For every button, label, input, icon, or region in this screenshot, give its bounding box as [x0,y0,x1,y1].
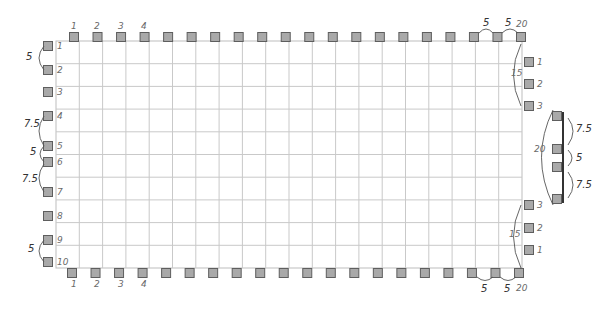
right-lower-annotation: 15 [509,229,521,239]
top-square [93,33,102,42]
bottom-square [162,269,171,278]
top-square [258,33,267,42]
top-arc-2 [502,29,518,33]
left-square [44,158,53,167]
bottom-square [515,269,524,278]
top-label-2: 2 [94,21,100,31]
bottom-square [256,269,265,278]
left-square [44,142,53,151]
bottom-square [350,269,359,278]
right-lower-label-3: 3 [537,200,543,210]
left-label: 4 [57,111,63,121]
top-square [140,33,149,42]
side-detail-square [553,145,562,154]
top-square [234,33,243,42]
left-label: 8 [57,211,63,221]
bottom-label-2: 2 [94,279,100,289]
top-square [493,33,502,42]
left-annotation-1-2: 5 [26,51,32,62]
side-detail-arc-3 [568,172,573,198]
top-square [422,33,431,42]
left-label: 3 [57,87,63,97]
bottom-square [115,269,124,278]
left-label: 5 [57,141,63,151]
top-label-1: 1 [71,21,77,31]
bottom-label-4: 4 [141,279,147,289]
top-square [281,33,290,42]
bottom-square [279,269,288,278]
top-annotation-5a: 5 [483,17,489,28]
grid-diagram: 1 2 3 4 5 5 20 1 2 3 4 5 5 20 1234567891… [0,0,609,310]
bottom-square [68,269,77,278]
bottom-square [209,269,218,278]
bottom-square [444,269,453,278]
bottom-square [420,269,429,278]
right-lower-label-1: 1 [537,245,543,255]
left-square [44,188,53,197]
bottom-square [326,269,335,278]
top-square [517,33,526,42]
right-upper-annotation: 15 [511,68,523,78]
side-detail-square [553,112,562,121]
top-square [399,33,408,42]
left-square [44,88,53,97]
left-label: 9 [57,235,63,245]
left-label: 10 [57,257,69,267]
left-label: 6 [57,157,63,167]
side-detail-square [553,163,562,172]
top-square [352,33,361,42]
right-square [525,80,534,89]
left-square [44,258,53,267]
bottom-square [491,269,500,278]
bottom-square [373,269,382,278]
top-square [164,33,173,42]
left-square [44,42,53,51]
grid [56,41,522,268]
left-square [44,112,53,121]
right-square [525,224,534,233]
top-label-4: 4 [141,21,147,31]
left-annotation-5-6: 5 [30,146,36,157]
left-label: 1 [57,41,63,51]
top-label-3: 3 [118,21,124,31]
left-annotation-6-7: 7.5 [22,173,38,184]
top-square [328,33,337,42]
top-square [70,33,79,42]
right-upper-label-1: 1 [537,57,543,67]
right-upper-label-3: 3 [537,101,543,111]
side-detail-arc-1 [568,118,573,145]
bottom-square [138,269,147,278]
bottom-annotation-5a: 5 [481,283,487,294]
right-square [525,246,534,255]
top-arc-1 [479,29,493,33]
side-detail-arc-2 [568,150,572,166]
top-square [117,33,126,42]
right-upper-label-2: 2 [537,79,543,89]
left-square [44,236,53,245]
bottom-label-3: 3 [118,279,124,289]
side-detail-square [553,195,562,204]
left-label: 7 [57,187,63,197]
left-square [44,66,53,75]
bottom-square [91,269,100,278]
side-detail-span-annotation: 20 [534,144,546,154]
top-square [469,33,478,42]
bottom-square [232,269,241,278]
top-annotation-20: 20 [516,19,528,29]
top-square [187,33,196,42]
side-detail-annotation-1: 7.5 [576,123,592,134]
bottom-square [303,269,312,278]
bottom-arc-2 [500,277,516,281]
bottom-label-1: 1 [71,279,77,289]
side-detail-annotation-2: 5 [576,152,582,163]
bottom-annotation-20: 20 [516,283,528,293]
right-lower-label-2: 2 [537,223,543,233]
left-label: 2 [57,65,63,75]
right-square [525,58,534,67]
bottom-square [185,269,194,278]
right-square [525,102,534,111]
top-square [375,33,384,42]
bottom-square [467,269,476,278]
left-annotation-9-10: 5 [28,243,34,254]
top-annotation-5b: 5 [505,17,511,28]
